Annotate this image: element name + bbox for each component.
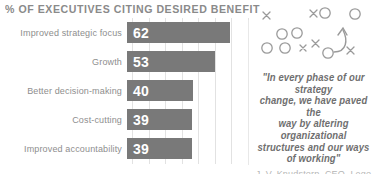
bar-track: 62 — [127, 22, 250, 43]
o-marker — [350, 9, 360, 19]
chart-row: Growth53 — [0, 47, 250, 76]
bar-track: 53 — [127, 51, 250, 72]
bar-track: 39 — [127, 138, 250, 159]
bar-value-label: 40 — [127, 84, 149, 98]
bar-category-label: Cost-cutting — [0, 115, 127, 125]
quote-line: of working" — [252, 153, 375, 165]
bar: 40 — [127, 80, 193, 101]
x-marker — [263, 12, 270, 19]
quote-line: structures and our ways — [252, 142, 375, 154]
bar-category-label: Improved strategic focus — [0, 28, 127, 38]
bar-category-label: Improved accountability — [0, 144, 127, 154]
chart-row: Improved strategic focus62 — [0, 18, 250, 47]
o-marker — [262, 43, 272, 53]
route-arrow-head — [338, 28, 347, 35]
o-marker — [323, 48, 333, 58]
bar-value-label: 53 — [127, 55, 149, 69]
quote-line: way by altering organizational — [252, 118, 375, 141]
chart-rows: Improved strategic focus62Growth53Better… — [0, 18, 250, 163]
page-title: % OF EXECUTIVES CITING DESIRED BENEFIT — [5, 3, 260, 15]
o-marker — [280, 43, 290, 53]
quote-line: "In every phase of our strategy — [252, 72, 375, 95]
x-marker — [347, 47, 354, 54]
x-marker — [312, 40, 319, 47]
bar: 39 — [127, 138, 192, 159]
o-marker — [320, 8, 330, 18]
bar: 39 — [127, 109, 192, 130]
quote-panel: "In every phase of our strategychange, w… — [249, 72, 378, 174]
bar: 62 — [127, 22, 230, 43]
chart-row: Better decision-making40 — [0, 76, 250, 105]
football-play-diagram — [255, 0, 378, 68]
bar-value-label: 62 — [127, 26, 149, 40]
bar-value-label: 39 — [127, 142, 149, 156]
quote-text: "In every phase of our strategychange, w… — [252, 72, 375, 165]
o-marker — [277, 29, 287, 39]
bar: 53 — [127, 51, 215, 72]
bar-category-label: Better decision-making — [0, 86, 127, 96]
bar-track: 39 — [127, 109, 250, 130]
bar-track: 40 — [127, 80, 250, 101]
infographic-page: % OF EXECUTIVES CITING DESIRED BENEFIT I… — [0, 0, 378, 174]
x-marker — [310, 10, 317, 17]
quote-line: change, we have paved the — [252, 95, 375, 118]
o-marker — [292, 28, 302, 38]
bar-chart: Improved strategic focus62Growth53Better… — [0, 18, 250, 168]
chart-row: Improved accountability39 — [0, 134, 250, 163]
x-marker — [300, 45, 306, 51]
bar-category-label: Growth — [0, 57, 127, 67]
quote-attribution: J. V. Knudstorp, CEO, Lego — [252, 168, 375, 174]
chart-row: Cost-cutting39 — [0, 105, 250, 134]
bar-value-label: 39 — [127, 113, 149, 127]
